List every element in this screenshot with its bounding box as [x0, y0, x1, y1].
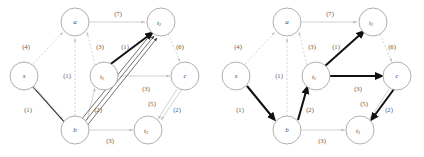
node-a[interactable]: a: [273, 8, 301, 36]
diagram-panel-left: a t2 s t1 c b: [0, 0, 212, 157]
edge-c-t3-2: [161, 89, 182, 120]
cost-t1-t2: (1): [332, 43, 340, 51]
node-t2[interactable]: t2: [359, 8, 387, 36]
cost-b-t1: (2): [306, 106, 314, 114]
cost-t1-c: (3): [354, 85, 362, 93]
node-a-label: a: [285, 18, 289, 26]
node-t3[interactable]: t3: [134, 116, 162, 144]
cost-a-t2: (7): [114, 10, 122, 18]
cost-t1-t2: (1): [121, 43, 129, 51]
node-a[interactable]: a: [61, 8, 89, 36]
node-c[interactable]: c: [383, 62, 411, 90]
cost-t1-c: (3): [142, 85, 150, 93]
node-t3[interactable]: t3: [346, 116, 374, 144]
node-t1[interactable]: t1: [90, 62, 118, 90]
edge-b-t1-bold: [298, 88, 307, 120]
node-t1[interactable]: t1: [302, 62, 330, 90]
node-s-label: s: [23, 72, 26, 80]
cost-c-t3-2: (2): [173, 106, 181, 114]
graph-svg-right: a t2 s t1 c b: [212, 0, 424, 157]
cost-t2-c: (6): [176, 43, 184, 51]
cost-a-t2: (7): [326, 10, 334, 18]
node-b-label: b: [73, 126, 77, 134]
node-s-label: s: [235, 72, 238, 80]
figure-root: a t2 s t1 c b: [0, 0, 424, 157]
cost-s-a: (4): [234, 43, 242, 51]
cost-t2-c: (6): [388, 43, 396, 51]
node-c[interactable]: c: [171, 62, 199, 90]
cost-s-a: (4): [22, 43, 30, 51]
node-a-label: a: [73, 18, 77, 26]
edge-s-a: [245, 32, 275, 64]
cost-s-b: (1): [24, 106, 32, 114]
edge-t1-t2-bold: [325, 32, 363, 66]
edge-s-b-bold: [247, 86, 274, 119]
edge-c-t3-5: [370, 89, 389, 119]
node-b-label: b: [285, 126, 289, 134]
edge-s-a: [33, 32, 63, 64]
cost-b-t1: (2): [94, 106, 102, 114]
cost-c-t3-5: (5): [360, 100, 368, 108]
cost-b-a: (1): [275, 72, 283, 80]
edge-t1-a: [87, 32, 95, 65]
cost-s-b: (1): [236, 106, 244, 114]
diagram-panel-right: a t2 s t1 c b: [212, 0, 424, 157]
cost-c-t3-5: (5): [148, 100, 156, 108]
edge-t1-a: [299, 32, 307, 65]
node-b[interactable]: b: [273, 116, 301, 144]
edge-c-t3-5: [158, 89, 177, 119]
node-t2[interactable]: t2: [147, 8, 175, 36]
graph-svg-left: a t2 s t1 c b: [0, 0, 212, 157]
cost-b-t3: (3): [106, 137, 114, 145]
node-b[interactable]: b: [61, 116, 89, 144]
cost-c-t3-2: (2): [385, 106, 393, 114]
edge-t1-t2-bold: [108, 33, 152, 66]
edge-c-t3-bold: [372, 89, 394, 119]
cost-t1-a: (3): [308, 43, 316, 51]
node-s[interactable]: s: [10, 62, 38, 90]
node-s[interactable]: s: [222, 62, 250, 90]
cost-b-t3: (3): [318, 137, 326, 145]
cost-b-a: (1): [63, 72, 71, 80]
cost-t1-a: (3): [96, 43, 104, 51]
